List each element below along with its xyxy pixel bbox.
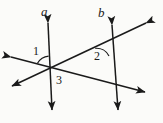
line-label-a: a [41, 5, 48, 18]
transversal-lines [11, 23, 146, 92]
angle-label-1: 1 [33, 45, 39, 57]
line-label-b: b [98, 6, 105, 19]
angle-label-3: 3 [56, 74, 62, 86]
transversal-lower-line [11, 57, 145, 92]
parallel-lines [48, 23, 118, 110]
arc-angle-1 [38, 56, 49, 63]
geometry-diagram-canvas [0, 0, 163, 123]
geometry-figure: a b 1 2 3 [0, 0, 163, 123]
angle-label-2: 2 [94, 50, 100, 62]
